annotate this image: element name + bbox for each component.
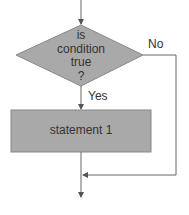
no-label: No (148, 38, 163, 51)
process-label: statement 1 (11, 124, 151, 137)
decision-line-3: true (51, 56, 111, 70)
decision-line-4: ? (51, 70, 111, 84)
decision-label: is condition true ? (51, 29, 111, 83)
decision-line-1: is (51, 29, 111, 43)
decision-line-2: condition (51, 43, 111, 57)
yes-label: Yes (88, 90, 108, 103)
